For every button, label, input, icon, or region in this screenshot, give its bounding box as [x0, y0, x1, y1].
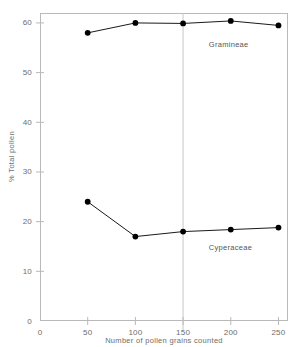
y-tick-label: 0 [10, 317, 32, 326]
series-label-cyperaceae: Cyperaceae [209, 243, 252, 252]
y-tick-label: 50 [10, 68, 32, 77]
series-label-gramineae: Gramineae [209, 40, 249, 49]
y-axis-title: % Total pollen [7, 117, 16, 197]
plot-area [40, 13, 288, 321]
y-tick-label: 60 [10, 18, 32, 27]
pollen-count-chart: 0102030405060 050100150200250 % Total po… [0, 0, 294, 347]
y-tick-label: 10 [10, 267, 32, 276]
y-tick-label: 20 [10, 217, 32, 226]
x-axis-title: Number of pollen grains counted [40, 336, 288, 345]
